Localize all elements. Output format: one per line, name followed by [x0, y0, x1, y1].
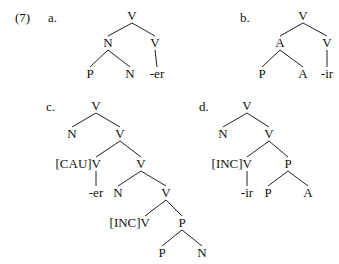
tree-edge: [96, 141, 120, 157]
tree-edge: [96, 113, 120, 127]
tree-node: V: [298, 8, 308, 23]
tree-node: V: [264, 126, 274, 141]
tree-node: N: [67, 126, 77, 141]
tree-edge: [72, 113, 96, 127]
tree-label-c: c.: [46, 99, 55, 114]
tree-edge: [247, 141, 269, 157]
tree-node: V: [115, 126, 125, 141]
tree-edge: [223, 113, 247, 127]
tree-label-a: a.: [48, 10, 57, 25]
tree-edge: [166, 200, 182, 216]
tree-node: P: [258, 66, 265, 81]
tree-edge: [120, 141, 141, 157]
tree-edge: [182, 230, 202, 246]
tree-node: N: [103, 35, 113, 50]
tree-node: [INC]V: [212, 156, 253, 171]
tree-node: P: [264, 185, 271, 200]
tree-node: P: [86, 66, 93, 81]
tree-edge: [145, 200, 166, 216]
tree-node: V: [136, 156, 146, 171]
tree-node: -ir: [241, 185, 254, 200]
tree-node: N: [218, 126, 228, 141]
syntax-tree-diagram: (7) VNVPN-erVAVPA-irVNV[CAU]VV-erNV[INC]…: [0, 0, 339, 264]
tree-node: A: [303, 185, 313, 200]
tree-node: A: [275, 35, 285, 50]
tree-node: V: [242, 98, 252, 113]
tree-edges: [72, 23, 327, 246]
tree-node: V: [150, 35, 160, 50]
tree-node: P: [178, 215, 185, 230]
tree-node: V: [322, 35, 332, 50]
tree-edge: [155, 50, 157, 67]
tree-node: V: [161, 185, 171, 200]
tree-node: -ir: [321, 66, 334, 81]
tree-labels: a.b.c.d.: [46, 10, 250, 114]
tree-node: -er: [150, 66, 165, 81]
tree-edge: [262, 50, 280, 67]
tree-node: N: [125, 66, 135, 81]
tree-node: N: [197, 245, 207, 260]
tree-edge: [108, 50, 130, 67]
tree-edge: [141, 171, 166, 186]
tree-node: V: [127, 8, 137, 23]
tree-edge: [247, 113, 269, 127]
tree-edge: [280, 50, 303, 67]
tree-edge: [269, 141, 288, 157]
tree-edge: [118, 171, 141, 186]
tree-node: P: [284, 156, 291, 171]
tree-node: N: [113, 185, 123, 200]
tree-label-d: d.: [199, 99, 209, 114]
tree-edge: [288, 171, 308, 186]
tree-edge: [162, 230, 182, 246]
tree-node: [CAU]V: [56, 156, 102, 171]
tree-node: [INC]V: [110, 215, 151, 230]
tree-edge: [90, 50, 108, 67]
tree-node: V: [91, 98, 101, 113]
tree-node: A: [298, 66, 308, 81]
tree-nodes: VNVPN-erVAVPA-irVNV[CAU]VV-erNV[INC]VPPN…: [56, 8, 334, 260]
example-number: (7): [15, 10, 30, 25]
tree-edge: [268, 171, 288, 186]
tree-node: -er: [89, 185, 104, 200]
tree-label-b: b.: [240, 10, 250, 25]
tree-node: P: [158, 245, 165, 260]
